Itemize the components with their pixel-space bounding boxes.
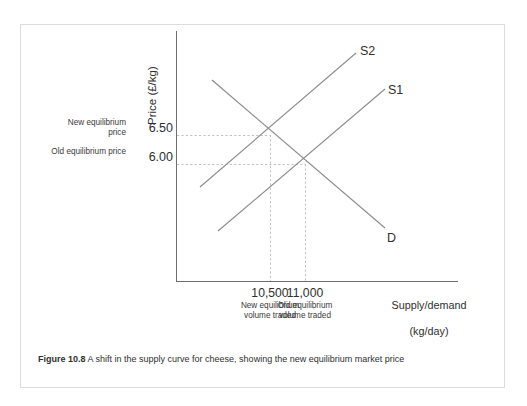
- x-axis-title: Supply/demand (kg/day): [371, 286, 481, 338]
- x-tick-old-value: 11,000: [268, 286, 342, 300]
- y-tick-650-label: 6.50: [149, 121, 173, 135]
- new-equilibrium-price-note: New equilibrium price: [48, 118, 126, 137]
- curve-label-s1: S1: [388, 83, 403, 97]
- curve-label-s2: S2: [360, 44, 375, 58]
- x-tick-old-note: Old equilibrium volume traded: [268, 301, 342, 320]
- y-tick-600-label: 6.00: [149, 150, 173, 164]
- x-tick-old-equilibrium: 11,000 Old equilibrium volume traded: [268, 286, 342, 320]
- old-equilibrium-price-note: Old equilibrium price: [48, 147, 126, 157]
- x-axis-title-line2: (kg/day): [409, 325, 448, 337]
- figure-caption: Figure 10.8 A shift in the supply curve …: [38, 353, 478, 365]
- curve-label-d: D: [387, 231, 396, 245]
- figure-caption-text: A shift in the supply curve for cheese, …: [86, 354, 405, 364]
- figure-caption-number: Figure 10.8: [38, 354, 86, 364]
- x-axis-title-line1: Supply/demand: [391, 299, 466, 311]
